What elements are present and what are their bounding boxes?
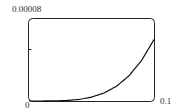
plot-frame: [29, 19, 155, 102]
data-curve: [29, 40, 154, 102]
plot-area: [0, 0, 173, 108]
